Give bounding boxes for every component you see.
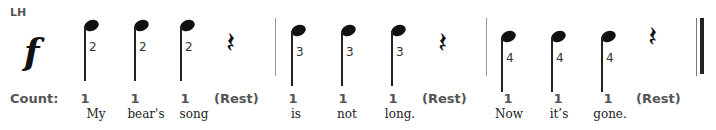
lyric: is <box>271 107 321 121</box>
count-value: 1 <box>70 91 100 106</box>
stem-icon <box>84 26 86 81</box>
stem-icon <box>134 26 136 81</box>
quarter-note: 2 <box>178 10 202 70</box>
count-label: Count: <box>10 91 58 106</box>
quarter-note: 4 <box>549 21 573 81</box>
finger-number: 2 <box>89 40 97 54</box>
quarter-note: 3 <box>339 15 363 75</box>
barline <box>486 18 487 76</box>
finger-number: 4 <box>606 51 614 65</box>
quarter-rest-icon: 𝄽 <box>648 22 657 52</box>
lyric: long. <box>375 107 425 121</box>
quarter-note: 2 <box>82 10 106 70</box>
quarter-note: 2 <box>132 10 156 70</box>
finger-number: 3 <box>396 45 404 59</box>
count-value: 1 <box>170 91 200 106</box>
hand-label: LH <box>10 6 26 19</box>
rest-count: (Rest) <box>636 91 681 106</box>
lyric: not <box>322 107 372 121</box>
lyric: bear's <box>121 107 171 121</box>
count-value: 1 <box>378 91 408 106</box>
stem-icon <box>291 31 293 86</box>
lyric: Now <box>484 107 534 121</box>
count-value: 1 <box>120 91 150 106</box>
lyric: song <box>169 107 219 121</box>
finger-number: 3 <box>346 45 354 59</box>
stem-icon <box>601 37 603 92</box>
count-value: 1 <box>328 91 358 106</box>
finger-number: 4 <box>506 51 514 65</box>
stem-icon <box>501 37 503 92</box>
stem-icon <box>180 26 182 81</box>
quarter-note: 4 <box>499 21 523 81</box>
final-barline-thick <box>700 18 704 74</box>
rest-count: (Rest) <box>422 91 467 106</box>
count-value: 1 <box>278 91 308 106</box>
finger-number: 2 <box>139 40 147 54</box>
quarter-rest-icon: 𝄽 <box>438 28 447 58</box>
count-value: 1 <box>543 91 573 106</box>
finger-number: 2 <box>185 40 193 54</box>
quarter-note: 4 <box>599 21 623 81</box>
quarter-note: 3 <box>389 15 413 75</box>
stem-icon <box>341 31 343 86</box>
quarter-note: 3 <box>289 15 313 75</box>
lyric: gone. <box>585 107 635 121</box>
stem-icon <box>551 37 553 92</box>
rest-count: (Rest) <box>214 91 259 106</box>
count-value: 1 <box>493 91 523 106</box>
lyric: it’s <box>534 107 584 121</box>
stem-icon <box>391 31 393 86</box>
finger-number: 3 <box>296 45 304 59</box>
finger-number: 4 <box>556 51 564 65</box>
count-value: 1 <box>593 91 623 106</box>
dynamic-marking-forte: f <box>24 30 40 72</box>
quarter-rest-icon: 𝄽 <box>226 28 235 58</box>
final-barline-thin <box>696 18 697 76</box>
barline <box>275 18 276 76</box>
lyric: My <box>71 107 121 121</box>
